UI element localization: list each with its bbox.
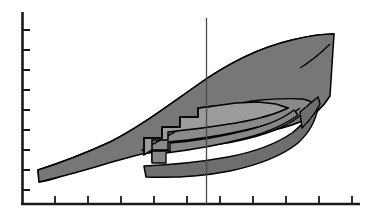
fan-chart-plot (0, 0, 374, 224)
chart-figure (0, 0, 374, 224)
